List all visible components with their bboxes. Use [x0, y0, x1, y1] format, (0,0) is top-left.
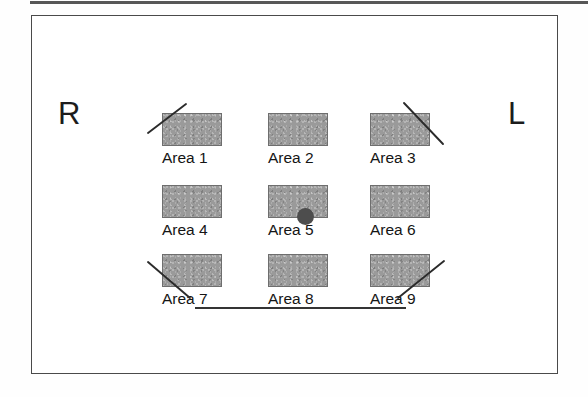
bottom-row-underline	[195, 307, 406, 309]
area-grid: Area 1 Area 2 Area 3 Area 4 Area 5 Area …	[162, 113, 430, 286]
area-swatch-5[interactable]	[268, 185, 328, 218]
area-label-4: Area 4	[162, 221, 222, 239]
area-swatch-9[interactable]	[370, 254, 430, 287]
area-cell-9[interactable]: Area 9	[370, 254, 430, 308]
area-label-7: Area 7	[162, 290, 222, 308]
area-cell-1[interactable]: Area 1	[162, 113, 222, 167]
marker-dot-icon	[297, 208, 314, 225]
area-swatch-8[interactable]	[268, 254, 328, 287]
area-swatch-7[interactable]	[162, 254, 222, 287]
figure-root: R L Area 1 Area 2 Area 3 Area 4 Area 5	[0, 0, 588, 397]
area-cell-7[interactable]: Area 7	[162, 254, 222, 308]
side-label-right-side: R	[58, 98, 80, 129]
area-label-6: Area 6	[370, 221, 430, 239]
area-label-3: Area 3	[370, 149, 430, 167]
page-edge-rule	[30, 1, 588, 4]
area-swatch-4[interactable]	[162, 185, 222, 218]
area-swatch-6[interactable]	[370, 185, 430, 218]
area-cell-5[interactable]: Area 5	[268, 185, 328, 239]
area-label-2: Area 2	[268, 149, 328, 167]
area-label-5: Area 5	[268, 221, 328, 239]
area-swatch-1[interactable]	[162, 113, 222, 146]
area-label-9: Area 9	[370, 290, 430, 308]
area-cell-3[interactable]: Area 3	[370, 113, 430, 167]
area-swatch-3[interactable]	[370, 113, 430, 146]
area-label-1: Area 1	[162, 149, 222, 167]
area-swatch-2[interactable]	[268, 113, 328, 146]
area-cell-6[interactable]: Area 6	[370, 185, 430, 239]
area-cell-8[interactable]: Area 8	[268, 254, 328, 308]
area-cell-2[interactable]: Area 2	[268, 113, 328, 167]
area-label-8: Area 8	[268, 290, 328, 308]
side-label-left-side: L	[508, 98, 525, 129]
area-cell-4[interactable]: Area 4	[162, 185, 222, 239]
